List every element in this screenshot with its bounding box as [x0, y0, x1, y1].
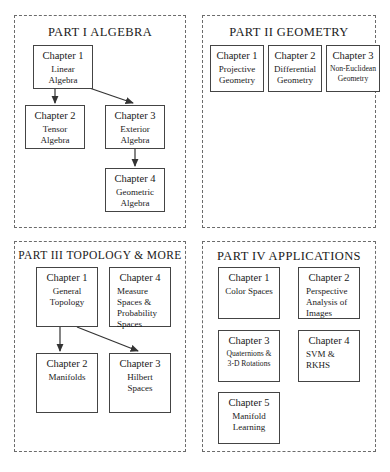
chapter-label: Chapter 1 [216, 50, 257, 62]
chapter-body: Perspective Analysis of Images [299, 286, 359, 319]
chapter-body: General Topology [37, 286, 97, 308]
chapter-box-p2c2[interactable]: Chapter 2 Differential Geometry [268, 45, 322, 92]
chapter-box-p2c3[interactable]: Chapter 3 Non-Euclidean Geometry [326, 45, 380, 92]
chapter-box-p3c1[interactable]: Chapter 1 General Topology [36, 267, 98, 327]
chapter-label: Chapter 3 [119, 358, 160, 370]
chapter-label: Chapter 2 [34, 110, 75, 122]
chapter-body: Color Spaces [219, 286, 279, 297]
chapter-label: Chapter 2 [46, 358, 87, 370]
chapter-label: Chapter 1 [42, 50, 83, 62]
chapter-label: Chapter 1 [46, 272, 87, 284]
chapter-body: Measure Spaces & Probability Spaces [110, 286, 170, 330]
chapter-body: Exterior Algebra [106, 124, 164, 146]
chapter-body: Quaternions & 3-D Rotations [219, 349, 279, 369]
chapter-body: Manifold Learning [219, 411, 279, 433]
chapter-label: Chapter 3 [228, 335, 269, 347]
chapter-box-p1c3[interactable]: Chapter 3 Exterior Algebra [105, 105, 165, 149]
chapter-box-p4c3[interactable]: Chapter 3 Quaternions & 3-D Rotations [218, 330, 280, 382]
chapter-label: Chapter 4 [308, 335, 349, 347]
chapter-body: Differential Geometry [269, 64, 321, 86]
chapter-body: Geometric Algebra [106, 187, 164, 209]
chapter-box-p4c2[interactable]: Chapter 2 Perspective Analysis of Images [298, 267, 360, 319]
chapter-box-p1c2[interactable]: Chapter 2 Tensor Algebra [25, 105, 85, 149]
chapter-box-p3c4[interactable]: Chapter 4 Measure Spaces & Probability S… [109, 267, 171, 327]
chapter-body: Tensor Algebra [26, 124, 84, 146]
chapter-label: Chapter 2 [274, 50, 315, 62]
chapter-box-p4c5[interactable]: Chapter 5 Manifold Learning [218, 392, 280, 444]
chapter-box-p1c4[interactable]: Chapter 4 Geometric Algebra [105, 168, 165, 212]
chapter-box-p2c1[interactable]: Chapter 1 Projective Geometry [210, 45, 264, 92]
diagram-canvas: PART I ALGEBRA Chapter 1 Linear Algebra … [0, 0, 390, 472]
chapter-box-p3c2[interactable]: Chapter 2 Manifolds [36, 353, 98, 413]
panel-title-part-1: PART I ALGEBRA [15, 25, 185, 40]
panel-title-part-3: PART III TOPOLOGY & MORE [15, 249, 185, 261]
chapter-label: Chapter 4 [114, 173, 155, 185]
panel-title-part-2: PART II GEOMETRY [203, 25, 375, 40]
panel-title-part-4: PART IV APPLICATIONS [203, 249, 375, 264]
chapter-body: Manifolds [37, 372, 97, 383]
chapter-box-p4c4[interactable]: Chapter 4 SVM & RKHS [298, 330, 360, 382]
chapter-box-p1c1[interactable]: Chapter 1 Linear Algebra [33, 45, 93, 89]
chapter-body: Linear Algebra [34, 64, 92, 86]
chapter-label: Chapter 2 [308, 272, 349, 284]
chapter-label: Chapter 4 [119, 272, 160, 284]
chapter-label: Chapter 3 [332, 50, 373, 62]
chapter-label: Chapter 1 [228, 272, 269, 284]
chapter-body: Projective Geometry [211, 64, 263, 86]
chapter-label: Chapter 3 [114, 110, 155, 122]
chapter-box-p4c1[interactable]: Chapter 1 Color Spaces [218, 267, 280, 319]
chapter-label: Chapter 5 [228, 397, 269, 409]
chapter-body: Hilbert Spaces [110, 372, 170, 394]
chapter-body: SVM & RKHS [299, 349, 359, 371]
chapter-box-p3c3[interactable]: Chapter 3 Hilbert Spaces [109, 353, 171, 413]
chapter-body: Non-Euclidean Geometry [327, 64, 379, 84]
